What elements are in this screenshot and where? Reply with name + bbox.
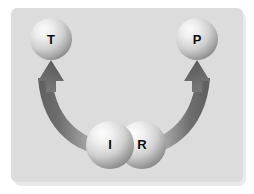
node-I-label: I xyxy=(108,137,112,152)
node-P-label: P xyxy=(193,32,202,47)
figure-root: T P I R xyxy=(0,0,254,194)
node-R-label: R xyxy=(137,137,147,152)
node-T-label: T xyxy=(47,32,55,47)
diagram-canvas: T P I R xyxy=(0,0,254,194)
